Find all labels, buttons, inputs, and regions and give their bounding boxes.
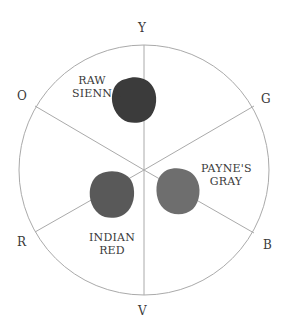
spoke-g bbox=[144, 106, 254, 170]
paint-blob-paynes-gray bbox=[156, 168, 199, 214]
hue-label-o: O bbox=[17, 89, 27, 103]
paint-label-line1: INDIAN bbox=[89, 231, 135, 244]
paint-label-paynes-gray: PAYNE'S GRAY bbox=[201, 162, 251, 188]
hue-label-g: G bbox=[261, 92, 271, 106]
paint-blob-indian-red bbox=[90, 171, 134, 218]
paint-label-line1: PAYNE'S bbox=[201, 162, 251, 175]
paint-label-raw-sienna: RAW SIENNA bbox=[72, 74, 112, 100]
hue-label-y: Y bbox=[138, 21, 146, 35]
hue-label-v: V bbox=[138, 304, 147, 318]
hue-label-b: B bbox=[263, 238, 272, 252]
paint-blob-raw-sienna bbox=[112, 77, 156, 123]
paint-label-line2: RED bbox=[89, 244, 135, 257]
paint-label-line1: RAW bbox=[72, 74, 112, 87]
paint-label-indian-red: INDIAN RED bbox=[89, 231, 135, 257]
paint-label-line2: GRAY bbox=[201, 175, 251, 188]
paint-label-line2: SIENNA bbox=[72, 87, 112, 100]
hue-label-r: R bbox=[17, 235, 26, 249]
